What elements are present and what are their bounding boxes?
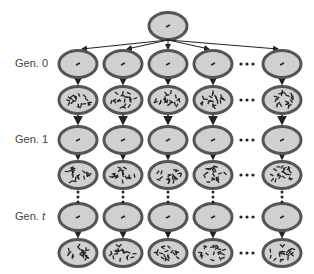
cell-row2-col2 <box>149 127 187 154</box>
gen-1-label: Gen. 1 <box>15 133 48 145</box>
gen-t-label: Gen. t <box>15 210 45 222</box>
cell-row4-col4 <box>263 204 301 231</box>
cell-row1-col2 <box>149 87 187 114</box>
cell-row5-col1 <box>104 240 142 267</box>
cell-row3-col2 <box>149 162 187 189</box>
cell-row0-col1 <box>104 51 142 78</box>
cell-row1-col3 <box>194 87 232 114</box>
cell-row4-col3 <box>194 204 232 231</box>
cell-row1-col1 <box>104 87 142 114</box>
cell-row5-col3 <box>194 240 232 267</box>
cell-row2-col3 <box>194 127 232 154</box>
cell-row3-col1 <box>104 162 142 189</box>
cell-row5-col0 <box>59 240 97 267</box>
cell-row2-col4 <box>263 127 301 154</box>
cell-row3-col0 <box>59 162 97 189</box>
cell-row5-col4 <box>263 240 301 267</box>
cell-row4-col0 <box>59 204 97 231</box>
cell-row1-col0 <box>59 87 97 114</box>
cell-row0-col4 <box>263 51 301 78</box>
cell-row0-col2 <box>149 51 187 78</box>
cell-row2-col0 <box>59 127 97 154</box>
cell-row3-col3 <box>194 162 232 189</box>
cell-row3-col4 <box>263 162 301 189</box>
cell-row0-col3 <box>194 51 232 78</box>
cell-row0-col0 <box>59 51 97 78</box>
cell-row1-col4 <box>263 87 301 114</box>
ancestor-cell <box>149 13 187 40</box>
cell-row5-col2 <box>149 240 187 267</box>
cell-row4-col2 <box>149 204 187 231</box>
cell-row4-col1 <box>104 204 142 231</box>
gen-0-label: Gen. 0 <box>15 57 48 69</box>
cell-row2-col1 <box>104 127 142 154</box>
